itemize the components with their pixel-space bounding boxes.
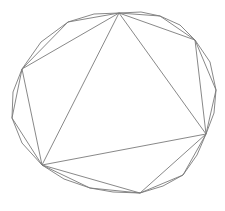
diagram-canvas	[0, 0, 225, 211]
hexagon-polygon	[22, 13, 206, 193]
dodecagon-polygon	[12, 13, 216, 193]
nested-polygons-figure	[0, 0, 225, 211]
triangle-polygon	[42, 13, 206, 165]
icositetragon-polygon	[12, 12, 216, 193]
